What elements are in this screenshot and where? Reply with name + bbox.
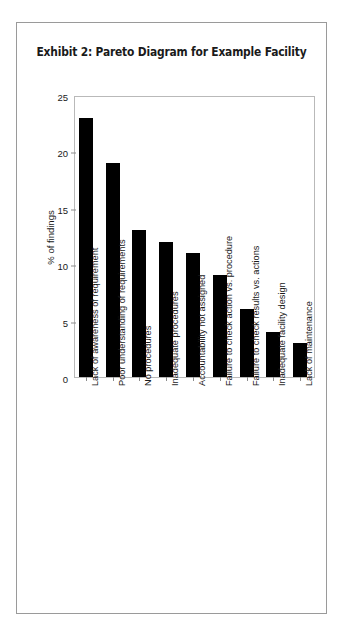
y-axis-title-text: % of findings xyxy=(45,210,56,264)
x-axis-tick-mark xyxy=(139,377,140,381)
x-axis-tick-mark xyxy=(193,377,194,381)
x-axis-category-label: Failure to check action vs. procedure xyxy=(224,236,234,386)
y-axis-tick-mark-5 xyxy=(71,322,76,323)
y-axis-tick-label-0: 0 xyxy=(63,374,68,385)
figure-card: Exhibit 2: Pareto Diagram for Example Fa… xyxy=(16,22,327,614)
x-axis-tick-mark xyxy=(220,377,221,381)
plot-area: 0510152025 Lack of awareness of requirem… xyxy=(74,96,315,378)
y-axis-tick-label-15: 15 xyxy=(57,204,68,215)
x-axis-category-label: Accountability not assigned xyxy=(197,275,207,386)
x-axis-tick-mark xyxy=(166,377,167,381)
x-axis-category-label: Poor understanding of requirements xyxy=(117,239,127,386)
y-axis-tick-label-25: 25 xyxy=(57,92,68,103)
x-axis-tick-mark xyxy=(113,377,114,381)
y-axis-tick-mark-20 xyxy=(71,153,76,154)
x-axis-tick-mark xyxy=(247,377,248,381)
x-axis-tick-mark xyxy=(300,377,301,381)
y-axis-tick-label-5: 5 xyxy=(63,317,68,328)
y-axis-title: % of findings xyxy=(43,96,57,378)
x-axis-category-label: Inadequate facility design xyxy=(277,282,287,386)
y-axis-tick-label-10: 10 xyxy=(57,261,68,272)
y-axis-tick-label-20: 20 xyxy=(57,148,68,159)
y-axis-tick-mark-10 xyxy=(71,266,76,267)
x-axis-category-label: No procedures xyxy=(143,326,153,386)
figure-title: Exhibit 2: Pareto Diagram for Example Fa… xyxy=(28,45,315,59)
x-axis-tick-mark xyxy=(86,377,87,381)
x-axis-category-label: Inadequate procedures xyxy=(170,292,180,387)
x-axis-category-label: Failure to check results vs. actions xyxy=(251,246,261,386)
x-axis-category-label: Lack of maintenance xyxy=(304,301,314,386)
x-axis-category-label: Lack of awareness of requirement xyxy=(90,248,100,386)
x-axis-tick-mark xyxy=(273,377,274,381)
y-axis-tick-mark-15 xyxy=(71,209,76,210)
